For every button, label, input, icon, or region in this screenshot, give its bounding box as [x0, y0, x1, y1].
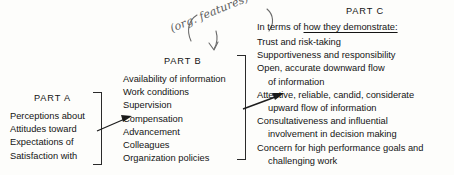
part-c-item: challenging work: [257, 155, 423, 168]
part-b-item: Availability of information: [123, 73, 226, 86]
part-b-item-list: Availability of information Work conditi…: [123, 73, 226, 165]
part-a-item: Satisfaction with: [10, 150, 85, 163]
part-a-item: Attitudes toward: [10, 123, 85, 136]
part-c-intro-underlined: how they demonstrate:: [304, 22, 398, 32]
part-b-item: Work conditions: [123, 86, 226, 99]
part-a-item-list: Perceptions about Attitudes toward Expec…: [10, 110, 85, 163]
part-b-item: Compensation: [123, 113, 226, 126]
diagram-canvas: PART A Perceptions about Attitudes towar…: [0, 0, 454, 175]
part-c-item: upward flow of information: [257, 102, 423, 115]
part-c-item-list: Trust and risk-taking Supportiveness and…: [257, 36, 423, 168]
part-b-heading: PART B: [164, 56, 202, 66]
part-c-item: Consultativeness and influential: [257, 115, 423, 128]
part-c-item: Supportiveness and responsibility: [257, 49, 423, 62]
part-a-item: Perceptions about: [10, 110, 85, 123]
part-c-item: Open, accurate downward flow: [257, 62, 423, 75]
part-c-intro-line: In terms of how they demonstrate:: [257, 22, 398, 32]
part-b-item: Organization policies: [123, 152, 226, 165]
part-a-heading: PART A: [34, 93, 71, 103]
part-c-item: Concern for high performance goals and: [257, 142, 423, 155]
part-b-item: Advancement: [123, 126, 226, 139]
part-c-intro-prefix: In terms of: [257, 22, 301, 32]
part-b-item: Colleagues: [123, 139, 226, 152]
part-c-item: Attentive, reliable, candid, considerate: [257, 89, 423, 102]
part-c-item: involvement in decision making: [257, 128, 423, 141]
part-b-item: Supervision: [123, 99, 226, 112]
part-a-item: Expectations of: [10, 136, 85, 149]
part-c-item: of information: [257, 76, 423, 89]
part-c-heading: PART C: [346, 6, 384, 16]
part-c-item: Trust and risk-taking: [257, 36, 423, 49]
